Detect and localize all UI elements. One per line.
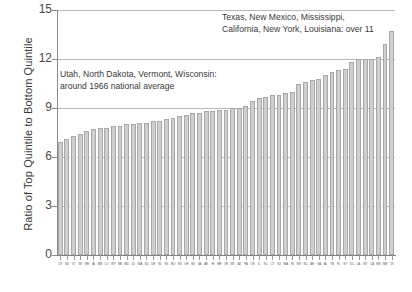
x-tick-mark-MD	[127, 255, 128, 260]
y-tick-label-12: 12	[6, 51, 52, 65]
bar-IA	[91, 129, 96, 255]
x-tick-mark-NM	[385, 255, 386, 260]
x-tick-mark-CA	[372, 255, 373, 260]
x-tick-mark-ND	[67, 255, 68, 260]
x-tick-mark-MO	[173, 255, 174, 260]
x-tick-mark-NC	[306, 255, 307, 260]
x-tick-mark-WV	[299, 255, 300, 260]
x-tick-mark-SC	[266, 255, 267, 260]
x-tick-mark-CO	[107, 255, 108, 260]
bar-OR	[224, 110, 229, 255]
x-tick-mark-DC	[352, 255, 353, 260]
x-tick-mark-SD	[146, 255, 147, 260]
x-tick-mark-MI	[193, 255, 194, 260]
bar-MI	[190, 113, 195, 255]
x-tick-mark-AZ	[239, 255, 240, 260]
bar-ID	[131, 124, 136, 255]
bar-VA	[197, 113, 202, 255]
y-tick-label-9: 9	[6, 100, 52, 114]
x-tick-mark-NJ	[279, 255, 280, 260]
bar-UT	[58, 142, 63, 255]
bar-MO	[171, 118, 176, 255]
bar-DE	[151, 121, 156, 255]
x-tick-mark-GA	[319, 255, 320, 260]
bar-ME	[217, 110, 222, 255]
bar-ND	[64, 139, 69, 255]
x-tick-mark-MS	[378, 255, 379, 260]
bar-WV	[296, 84, 301, 256]
x-tick-mark-LA	[359, 255, 360, 260]
bar-AZ	[237, 108, 242, 255]
y-tick-label-6: 6	[6, 149, 52, 163]
annotation-over-eleven: Texas, New Mexico, Mississippi, Californ…	[222, 12, 374, 35]
bar-MS	[376, 57, 381, 255]
bar-CT	[270, 95, 275, 255]
bar-NY	[363, 59, 368, 255]
x-tick-mark-IA	[93, 255, 94, 260]
x-tick-mark-ME	[219, 255, 220, 260]
bar-TX	[389, 31, 394, 255]
bar-NH	[84, 131, 89, 255]
x-tick-mark-MA	[286, 255, 287, 260]
bar-CO	[104, 128, 109, 255]
bar-OH	[184, 115, 189, 255]
x-tick-mark-WI	[80, 255, 81, 260]
x-tick-mark-AR	[312, 255, 313, 260]
bar-GA	[316, 79, 321, 255]
bar-TN	[330, 72, 335, 255]
x-axis-label-group: UTNDVTWINHIAMNCOWYNEMDIDWASDDEINKSMONVOH…	[57, 262, 395, 274]
bar-MN	[98, 128, 103, 255]
bar-SD	[144, 123, 149, 255]
bar-AL	[323, 75, 328, 255]
x-tick-mark-MT	[233, 255, 234, 260]
bar-CA	[369, 59, 374, 255]
x-tick-mark-NH	[87, 255, 88, 260]
bar-NM	[383, 44, 388, 255]
bar-SC	[263, 97, 268, 255]
x-tick-mark-VA	[199, 255, 200, 260]
bar-NC	[303, 82, 308, 255]
x-tick-mark-FL	[339, 255, 340, 260]
bar-WI	[78, 134, 83, 255]
x-tick-mark-TX	[392, 255, 393, 260]
bar-KY	[343, 69, 348, 255]
x-tick-mark-AL	[325, 255, 326, 260]
bar-WY	[111, 126, 116, 255]
bar-NE	[118, 126, 123, 255]
x-tick-label-TX: TX	[388, 262, 396, 267]
x-tick-mark-DE	[153, 255, 154, 260]
x-tick-mark-WA	[140, 255, 141, 260]
bar-RI	[290, 92, 295, 255]
bar-NJ	[277, 95, 282, 255]
x-tick-mark-AK	[206, 255, 207, 260]
x-tick-mark-KS	[166, 255, 167, 260]
bar-NV	[177, 116, 182, 255]
bar-PA	[243, 106, 248, 255]
bar-FL	[336, 70, 341, 255]
bar-WA	[137, 123, 142, 255]
x-tick-mark-OH	[186, 255, 187, 260]
x-tick-mark-OR	[226, 255, 227, 260]
bar-IL	[257, 98, 262, 255]
x-tick-mark-NE	[120, 255, 121, 260]
bar-MA	[283, 93, 288, 255]
bar-HI	[210, 111, 215, 255]
bar-DC	[349, 62, 354, 255]
x-tick-mark-NV	[180, 255, 181, 260]
bar-OK	[250, 101, 255, 255]
x-tick-mark-WY	[113, 255, 114, 260]
x-tick-mark-RI	[292, 255, 293, 260]
x-tick-mark-OK	[253, 255, 254, 260]
x-axis-tick-group	[57, 255, 395, 261]
bar-VT	[71, 136, 76, 255]
x-tick-mark-VT	[74, 255, 75, 260]
bar-AR	[310, 80, 315, 255]
x-tick-mark-IN	[160, 255, 161, 260]
x-tick-mark-TN	[332, 255, 333, 260]
chart-figure: Ratio of Top Quintile to Bottom Quintile…	[0, 0, 412, 292]
x-tick-mark-ID	[133, 255, 134, 260]
x-tick-mark-CT	[272, 255, 273, 260]
bar-MT	[230, 108, 235, 255]
x-tick-mark-PA	[246, 255, 247, 260]
x-tick-mark-HI	[213, 255, 214, 260]
